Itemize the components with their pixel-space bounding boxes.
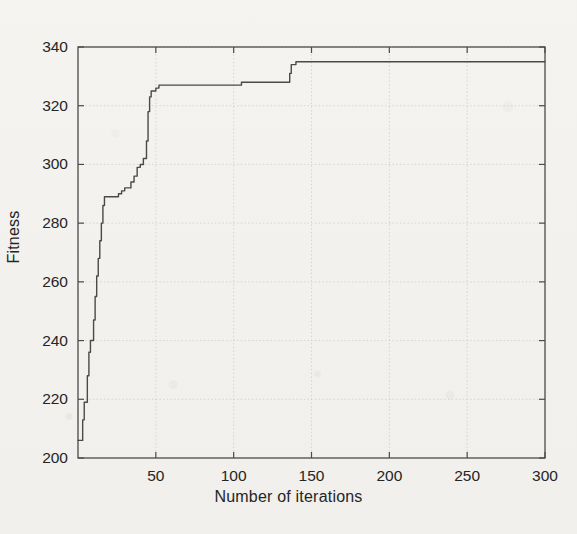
x-axis-title: Number of iterations <box>0 488 577 506</box>
y-tick-label: 220 <box>22 390 68 408</box>
axes-frame <box>78 47 545 458</box>
y-tick-label: 340 <box>22 38 68 56</box>
fitness-convergence-chart: Number of iterations Fitness 20022024026… <box>0 0 577 534</box>
x-tick-label: 100 <box>209 467 259 485</box>
y-tick-label: 300 <box>22 155 68 173</box>
plot-canvas <box>0 0 577 534</box>
y-tick-label: 320 <box>22 97 68 115</box>
y-tick-label: 200 <box>22 449 68 467</box>
y-axis-title: Fitness <box>5 157 23 317</box>
y-tick-label: 260 <box>22 273 68 291</box>
x-tick-label: 50 <box>131 467 181 485</box>
x-tick-label: 300 <box>520 467 570 485</box>
tick-marks <box>78 47 545 458</box>
y-tick-label: 280 <box>22 214 68 232</box>
y-tick-label: 240 <box>22 332 68 350</box>
x-tick-label: 150 <box>287 467 337 485</box>
grid-lines <box>78 47 545 458</box>
x-tick-label: 250 <box>442 467 492 485</box>
x-tick-label: 200 <box>364 467 414 485</box>
